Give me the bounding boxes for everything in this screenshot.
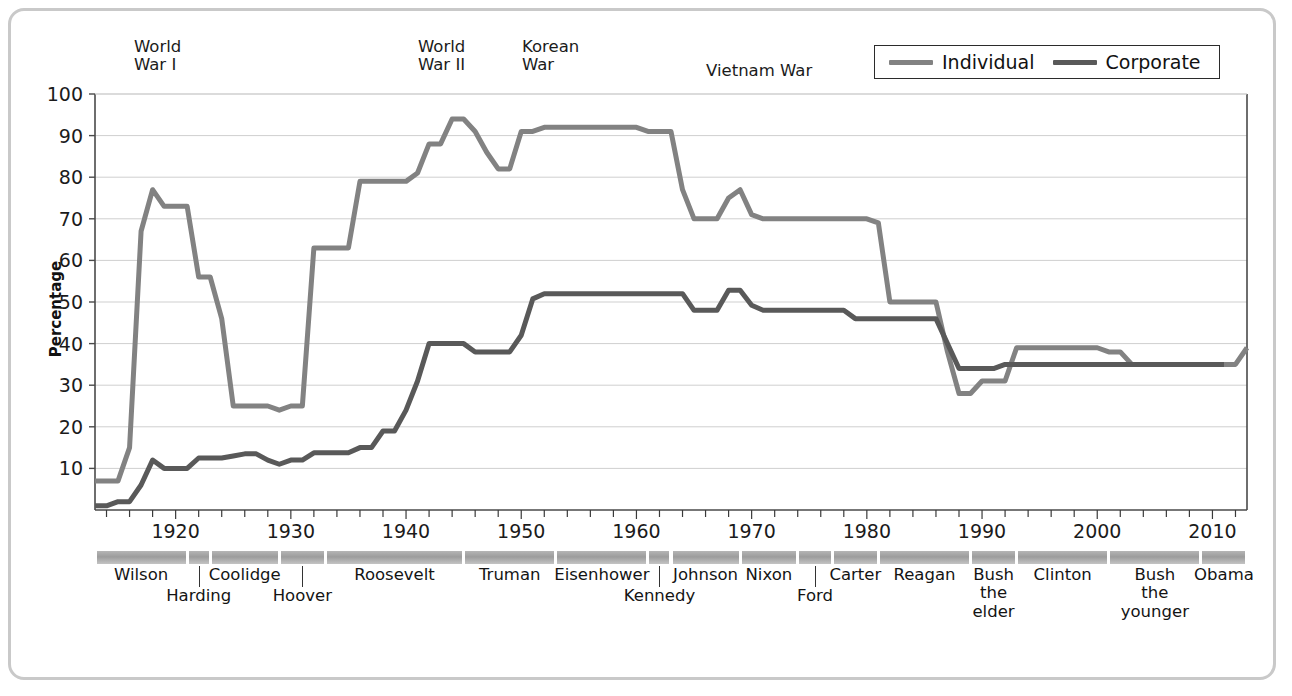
y-tick-label: 70: [27, 210, 83, 229]
president-bar-bush-the-elder: [972, 551, 1015, 564]
x-tick-label: 1960: [601, 522, 671, 541]
y-tick-label: 20: [27, 418, 83, 437]
president-bar-roosevelt: [327, 551, 462, 564]
y-tick-label: 30: [27, 376, 83, 395]
annotation-korean-war: Korean War: [522, 38, 579, 74]
president-bar-truman: [465, 551, 554, 564]
president-bar-nixon: [742, 551, 797, 564]
y-tick-label: 90: [27, 127, 83, 146]
president-bar-eisenhower: [557, 551, 646, 564]
president-bar-ford: [799, 551, 831, 564]
chart-legend: Individual Corporate: [874, 45, 1220, 79]
legend-item-corporate[interactable]: Corporate: [1053, 53, 1201, 72]
president-bar-bush-the-younger: [1110, 551, 1199, 564]
legend-swatch-corporate: [1053, 60, 1097, 65]
president-label-coolidge: Coolidge: [165, 566, 325, 584]
president-bar-coolidge: [212, 551, 278, 564]
y-tick-label: 80: [27, 168, 83, 187]
x-tick-label: 1970: [717, 522, 787, 541]
president-bar-obama: [1202, 551, 1245, 564]
x-tick-label: 1980: [832, 522, 902, 541]
president-bar-reagan: [880, 551, 969, 564]
x-tick-label: 1920: [141, 522, 211, 541]
president-label-kennedy: Kennedy: [579, 587, 739, 605]
y-tick-label: 100: [27, 85, 83, 104]
y-tick-label: 10: [27, 459, 83, 478]
annotation-world-war-ii: World War II: [418, 38, 465, 74]
x-tick-label: 1940: [371, 522, 441, 541]
president-bar-kennedy: [649, 551, 669, 564]
annotation-vietnam-war: Vietnam War: [706, 62, 812, 80]
series-line-corporate: [95, 290, 1224, 505]
x-tick-label: 2000: [1062, 522, 1132, 541]
legend-label-corporate: Corporate: [1106, 53, 1201, 72]
president-label-ford: Ford: [735, 587, 895, 605]
president-bar-carter: [834, 551, 877, 564]
y-tick-label: 50: [27, 293, 83, 312]
president-label-hoover: Hoover: [222, 587, 382, 605]
president-label-obama: Obama: [1144, 566, 1292, 584]
x-tick-label: 1930: [256, 522, 326, 541]
president-bar-wilson: [97, 551, 186, 564]
annotation-world-war-i: World War I: [134, 38, 181, 74]
president-bar-harding: [189, 551, 209, 564]
legend-label-individual: Individual: [942, 53, 1035, 72]
president-bar-hoover: [281, 551, 324, 564]
president-leader-line-hoover: [302, 566, 303, 587]
x-tick-label: 2010: [1177, 522, 1247, 541]
legend-swatch-individual: [889, 60, 933, 65]
president-bar-clinton: [1018, 551, 1107, 564]
legend-item-individual[interactable]: Individual: [889, 53, 1035, 72]
x-tick-label: 1950: [486, 522, 556, 541]
y-tick-label: 60: [27, 251, 83, 270]
chart-figure: Percentage 100908070605040302010 1920193…: [0, 0, 1292, 696]
x-tick-label: 1990: [947, 522, 1017, 541]
president-bar-johnson: [673, 551, 739, 564]
y-tick-label: 40: [27, 335, 83, 354]
